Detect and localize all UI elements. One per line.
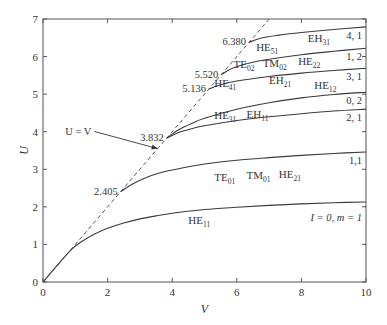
plot-area: 024681001234567VUU = VI = 0, m = 1HE111,… bbox=[17, 13, 372, 316]
mode-label: HE11 bbox=[188, 214, 210, 229]
y-tick-label: 5 bbox=[33, 88, 39, 100]
cutoff-label: 2.405 bbox=[94, 186, 118, 197]
mode-label: EH21 bbox=[269, 74, 291, 89]
y-tick-label: 2 bbox=[33, 201, 39, 213]
mode-curve bbox=[121, 152, 366, 192]
curve-end-label: 3, 1 bbox=[346, 71, 362, 82]
arrow-head-icon bbox=[151, 145, 157, 150]
curve-end-label: 1,1 bbox=[349, 155, 362, 166]
x-tick-label: 2 bbox=[105, 286, 111, 298]
mode-label: TE02 bbox=[234, 58, 255, 73]
y-tick-label: 1 bbox=[33, 238, 39, 250]
mode-label: HE21 bbox=[279, 168, 301, 183]
curve-end-label: I = 0, m = 1 bbox=[309, 212, 362, 223]
x-tick-label: 4 bbox=[169, 286, 175, 298]
cutoff-label: 5.520 bbox=[195, 69, 219, 80]
mode-label: HE22 bbox=[298, 55, 320, 70]
y-tick-label: 3 bbox=[33, 163, 39, 175]
cutoff-label: 5.136 bbox=[182, 83, 206, 94]
y-tick-label: 6 bbox=[33, 51, 39, 63]
mode-label: TM01 bbox=[246, 169, 270, 184]
curve-end-label: 2, 1 bbox=[346, 112, 362, 123]
mode-label: TM02 bbox=[263, 57, 287, 72]
x-tick-label: 10 bbox=[361, 286, 373, 298]
curve-end-label: 1, 2 bbox=[346, 51, 362, 62]
mode-label: HE41 bbox=[214, 77, 236, 92]
x-axis-label: V bbox=[201, 302, 210, 316]
u-equals-v-label: U = V bbox=[65, 126, 92, 137]
mode-label: EH31 bbox=[308, 32, 330, 47]
cutoff-label: 6.380 bbox=[222, 36, 246, 47]
x-tick-label: 8 bbox=[299, 286, 305, 298]
y-tick-label: 4 bbox=[33, 126, 39, 138]
x-tick-label: 6 bbox=[234, 286, 240, 298]
curve-end-label: 4, 1 bbox=[346, 30, 362, 41]
plot-frame bbox=[43, 19, 366, 282]
y-tick-label: 0 bbox=[33, 276, 39, 288]
curve-end-label: 0, 2 bbox=[346, 95, 362, 106]
mode-label: EH11 bbox=[246, 108, 268, 123]
y-tick-label: 7 bbox=[33, 13, 39, 25]
mode-label: TE01 bbox=[214, 171, 235, 186]
y-axis-label: U bbox=[17, 145, 31, 155]
dispersion-chart: 024681001234567VUU = VI = 0, m = 1HE111,… bbox=[0, 0, 387, 325]
mode-label: HE31 bbox=[214, 109, 236, 124]
mode-label: HE12 bbox=[314, 79, 336, 94]
cutoff-label: 3.832 bbox=[140, 132, 164, 143]
mode-label: HE51 bbox=[256, 41, 278, 56]
x-tick-label: 0 bbox=[40, 286, 46, 298]
